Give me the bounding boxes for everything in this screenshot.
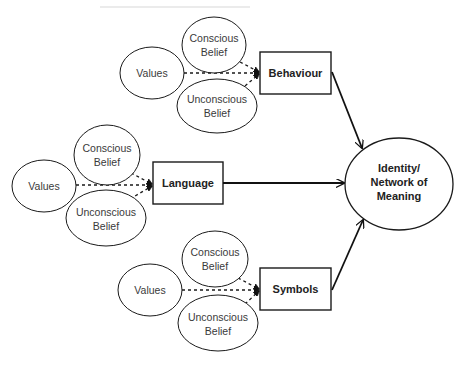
unconscious-belief-label: Unconscious <box>76 206 136 218</box>
unconscious-belief-label: Unconscious <box>188 311 248 323</box>
conscious-belief-label-2: Belief <box>202 260 228 272</box>
unconscious-belief-label-2: Belief <box>93 220 119 232</box>
conscious-belief-label: Conscious <box>190 246 239 258</box>
edge-unconscious-symbols <box>245 291 259 304</box>
unconscious-belief-node <box>66 190 146 246</box>
identity-label-line2: Network of <box>371 176 428 188</box>
values-label: Values <box>134 284 165 296</box>
behaviour-label: Behaviour <box>269 67 324 79</box>
unconscious-belief-node <box>177 79 257 133</box>
symbols-label: Symbols <box>273 283 319 295</box>
edge-symbols-identity <box>332 220 363 290</box>
unconscious-belief-node <box>178 295 258 351</box>
edge-conscious-behaviour <box>240 62 259 72</box>
group-behaviour: Conscious Belief Values Unconscious Beli… <box>120 17 331 133</box>
conscious-belief-label: Conscious <box>189 32 238 44</box>
language-label: Language <box>162 177 214 189</box>
edge-conscious-symbols <box>238 278 259 289</box>
edge-conscious-language <box>131 173 152 184</box>
identity-diagram: Conscious Belief Values Unconscious Beli… <box>0 0 465 367</box>
conscious-belief-label: Conscious <box>82 142 131 154</box>
unconscious-belief-label-2: Belief <box>204 107 230 119</box>
conscious-belief-node <box>182 231 248 287</box>
group-language: Conscious Belief Values Unconscious Beli… <box>12 125 223 246</box>
edge-behaviour-identity <box>332 72 362 148</box>
conscious-belief-node <box>182 17 246 73</box>
group-symbols: Conscious Belief Values Unconscious Beli… <box>118 231 331 351</box>
conscious-belief-label-2: Belief <box>201 46 227 58</box>
identity-label-line3: Meaning <box>377 190 422 202</box>
unconscious-belief-label: Unconscious <box>187 93 247 105</box>
edge-unconscious-behaviour <box>245 74 259 86</box>
conscious-belief-node <box>74 125 140 185</box>
values-label: Values <box>136 67 167 79</box>
identity-label-line1: Identity/ <box>378 162 420 174</box>
conscious-belief-label-2: Belief <box>94 156 120 168</box>
values-label: Values <box>28 180 59 192</box>
unconscious-belief-label-2: Belief <box>205 325 231 337</box>
outcome-node-group: Identity/ Network of Meaning <box>345 138 453 230</box>
